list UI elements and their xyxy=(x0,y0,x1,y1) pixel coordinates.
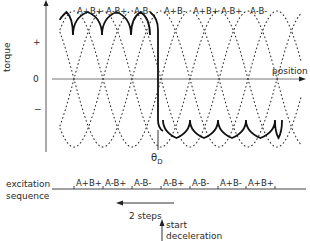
torque-position-diagram xyxy=(0,0,310,241)
phase-label: A-B- xyxy=(134,6,151,16)
x-axis-label: position xyxy=(272,66,308,76)
excitation-label-line2: sequence xyxy=(6,191,49,201)
phase-label: A-B+ xyxy=(221,6,242,16)
excitation-step: A+B- xyxy=(220,178,242,188)
x-axis-arrow-icon xyxy=(299,77,306,82)
phase-label: A+B- xyxy=(164,6,186,16)
excitation-step: A+B+ xyxy=(248,178,274,188)
excitation-step: A-B+ xyxy=(163,178,184,188)
excitation-step: A-B- xyxy=(134,178,151,188)
y-tick-zero: 0 xyxy=(33,74,39,84)
two-steps-label: 2 steps xyxy=(129,211,162,221)
deceleration-label: deceleration xyxy=(166,231,222,241)
phase-label: A-B- xyxy=(250,6,267,16)
theta-d-label: θD xyxy=(151,153,163,167)
excitation-step: A-B+ xyxy=(105,178,126,188)
phase-label: A+B+ xyxy=(193,6,219,16)
y-axis-label: torque xyxy=(2,42,12,72)
start-label: start xyxy=(166,220,187,230)
y-axis-arrow-icon xyxy=(44,0,49,6)
torque-drop-line xyxy=(150,12,163,131)
excitation-step: A-B- xyxy=(192,178,209,188)
excitation-step: A+B+ xyxy=(76,178,102,188)
lower-torque-envelope xyxy=(163,120,282,138)
phase-label: A-B+ xyxy=(106,6,127,16)
y-tick-minus: − xyxy=(34,104,42,114)
left-arrow-icon xyxy=(116,201,123,206)
phase-label: A+B+ xyxy=(77,6,103,16)
y-tick-plus: + xyxy=(33,37,41,47)
excitation-label-line1: excitation xyxy=(6,179,50,189)
